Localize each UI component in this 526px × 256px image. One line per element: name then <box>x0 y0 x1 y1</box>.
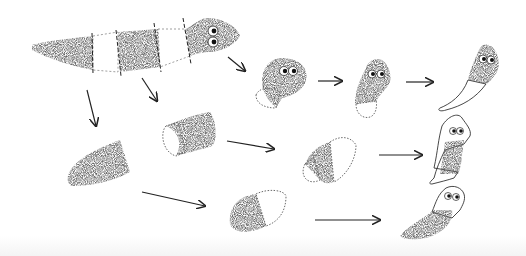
arrow-icon <box>142 192 205 206</box>
middle-fragment-stage-2 <box>303 138 356 184</box>
middle-segment <box>118 29 160 72</box>
cut-segment-2 <box>158 29 190 67</box>
middle-fragment-stage-3 <box>430 115 471 184</box>
arrow-icon <box>227 141 274 149</box>
head-fragment-stage-3 <box>439 45 499 111</box>
cut-segment-1 <box>93 32 118 72</box>
tail-fragment-stage-3 <box>400 186 465 239</box>
arrow-icon <box>228 57 245 71</box>
arrow-icon <box>87 90 96 126</box>
tail-fragment-stage-1 <box>68 140 130 186</box>
tail-fragment-stage-2 <box>230 190 286 231</box>
head-fragment-stage-2 <box>355 59 391 118</box>
planarian-regeneration-diagram <box>0 0 526 256</box>
tail-segment <box>32 36 93 70</box>
whole-worm <box>32 18 240 76</box>
arrow-icon <box>142 78 157 101</box>
head-fragment-stage-1 <box>256 58 306 108</box>
middle-fragment-stage-1 <box>163 112 216 156</box>
